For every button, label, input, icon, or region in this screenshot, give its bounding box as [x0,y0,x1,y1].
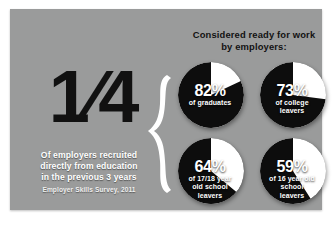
headline-statement: Of employers recruited directly from edu… [26,150,152,184]
statement-line-1: Of employers recruited [26,150,152,161]
poster-panel: 1⁄4 Of employers recruited directly from… [10,9,322,210]
pie-slice-graduates [178,62,244,128]
pie-chart-college-leavers: 73% of college leavers [254,62,330,136]
pie-chart-grid: 82% of graduates 73% of college [170,62,332,214]
pie-chart-graduates: 82% of graduates [172,62,248,136]
headline-fraction: 1⁄4 [38,56,148,138]
statement-line-3: in the previous 3 years [26,172,152,183]
pie-chart-16-school-leavers: 59% of 16 year old school leavers [254,138,330,212]
pie-disc [260,62,326,128]
pie-chart-17-18-school-leavers: 64% of 17/18 year old school leavers [172,138,248,212]
chart-header: Considered ready for work by employers: [178,29,330,54]
pie-disc [260,138,326,204]
source-citation: Employer Skills Survey, 2011 [26,186,152,193]
chart-header-line-2: by employers: [178,41,330,53]
pie-disc [178,62,244,128]
pie-slice-college-leavers [260,62,326,128]
pie-slice-17-18-school-leavers [178,138,244,204]
curly-brace-icon [146,73,172,195]
statement-line-2: directly from education [26,161,152,172]
pie-slice-16-school-leavers [260,138,326,204]
infographic-poster: 1⁄4 Of employers recruited directly from… [0,0,333,227]
chart-header-line-1: Considered ready for work [178,29,330,41]
pie-disc [178,138,244,204]
